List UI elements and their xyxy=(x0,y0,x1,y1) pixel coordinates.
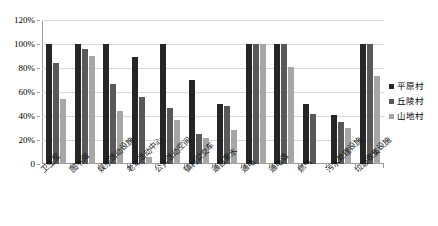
y-axis-tick xyxy=(37,92,40,93)
y-axis-tick-label: 80% xyxy=(19,64,36,73)
bar-chart: 020%40%60%80%100%120% 卫生室图书阅娱乐活动设施老年活动中心… xyxy=(0,0,438,226)
bar xyxy=(103,44,109,164)
bar xyxy=(189,80,195,164)
bar-group xyxy=(213,20,242,164)
plot-area xyxy=(42,20,384,164)
bar xyxy=(75,44,81,164)
bar xyxy=(288,67,294,164)
bar xyxy=(82,49,88,164)
legend-swatch xyxy=(389,99,394,104)
legend-label: 山地村 xyxy=(397,112,424,121)
y-axis-tick xyxy=(37,164,40,165)
legend-item[interactable]: 平原村 xyxy=(389,79,438,94)
y-axis-tick xyxy=(37,20,40,21)
y-axis-tick-label: 60% xyxy=(19,88,36,97)
y-axis-tick xyxy=(37,68,40,69)
bar-group xyxy=(71,20,100,164)
y-axis-tick-label: 0 xyxy=(31,160,36,169)
x-axis-labels: 卫生室图书阅娱乐活动设施老年活动中心公共活动空间镇村公交车通自来水通电通电话燃气… xyxy=(42,169,384,226)
bar xyxy=(253,44,259,164)
y-axis-tick-label: 100% xyxy=(14,40,35,49)
bar-group xyxy=(42,20,71,164)
bar xyxy=(310,114,316,164)
legend-swatch xyxy=(389,84,394,89)
y-axis-tick-label: 120% xyxy=(14,16,35,25)
legend-label: 丘陵村 xyxy=(397,97,424,106)
bar xyxy=(60,99,66,164)
bar xyxy=(360,44,366,164)
bar-group xyxy=(242,20,271,164)
bar xyxy=(53,63,59,164)
legend-item[interactable]: 山地村 xyxy=(389,109,438,124)
legend-swatch xyxy=(389,114,394,119)
bar-group xyxy=(270,20,299,164)
bar xyxy=(303,104,309,164)
bar xyxy=(46,44,52,164)
legend-item[interactable]: 丘陵村 xyxy=(389,94,438,109)
bar xyxy=(160,44,166,164)
bar xyxy=(367,44,373,164)
bar xyxy=(89,56,95,164)
bar xyxy=(246,44,252,164)
y-axis-tick-label: 20% xyxy=(19,136,36,145)
bar xyxy=(132,57,138,164)
legend: 平原村丘陵村山地村 xyxy=(389,79,438,124)
bar xyxy=(260,44,266,164)
bar-groups xyxy=(42,20,384,164)
legend-label: 平原村 xyxy=(397,82,424,91)
bar xyxy=(274,44,280,164)
y-axis-tick xyxy=(37,44,40,45)
y-axis-tick xyxy=(37,116,40,117)
y-axis-tick-label: 40% xyxy=(19,112,36,121)
bar-group xyxy=(299,20,328,164)
bar xyxy=(281,44,287,164)
y-axis: 020%40%60%80%100%120% xyxy=(0,20,40,164)
y-axis-tick xyxy=(37,140,40,141)
